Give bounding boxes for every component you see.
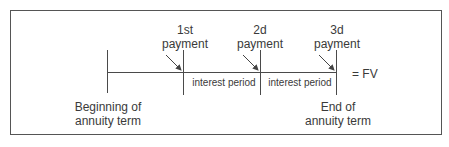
payment-1-label: 1st payment — [160, 23, 210, 51]
arrow-icon — [243, 55, 258, 70]
end-label: End of annuity term — [298, 100, 378, 128]
interval-2-label: interest period — [266, 76, 334, 90]
payment-3-label: 3d payment — [312, 23, 362, 51]
arrow-icon — [166, 55, 181, 70]
interval-1-label: interest period — [190, 76, 258, 90]
arrow-icon — [319, 55, 334, 70]
start-label: Beginning of annuity term — [68, 100, 148, 128]
fv-label: = FV — [352, 67, 378, 81]
payment-2-label: 2d payment — [235, 23, 285, 51]
